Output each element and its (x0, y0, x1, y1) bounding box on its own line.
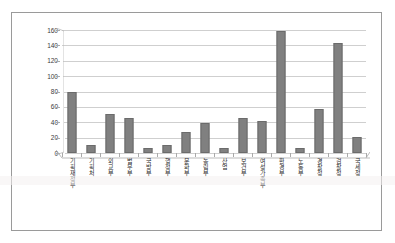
bar (314, 109, 323, 153)
y-axis-tick-label: 140 (10, 42, 58, 49)
x-axis-tick-mark (100, 153, 101, 157)
y-axis-tick-label: 20 (10, 134, 58, 141)
x-axis-tick-label: 여성가족부 (258, 158, 265, 188)
y-axis-tick-label: 100 (10, 73, 58, 80)
bar (352, 137, 361, 153)
bar (238, 118, 247, 153)
x-axis-tick-label: 법무부 (125, 158, 132, 176)
x-axis-tick-mark (366, 153, 367, 157)
bar (162, 145, 171, 153)
x-axis-tick-mark (347, 153, 348, 157)
bar-slot (347, 30, 366, 153)
x-axis-tick-label: 경찰청 (315, 158, 322, 176)
x-axis-tick-label: 기획처 (87, 158, 94, 176)
bar (257, 121, 266, 153)
x-axis-tick-mark (119, 153, 120, 157)
x-axis-tick-mark (309, 153, 310, 157)
x-axis-tick-mark (252, 153, 253, 157)
x-axis-tick-mark (138, 153, 139, 157)
x-axis-tick-label: 국세청 (353, 158, 360, 176)
bar-slot (233, 30, 252, 153)
x-axis-tick-mark (233, 153, 234, 157)
x-axis-tick-label: 환경부 (277, 158, 284, 176)
x-axis-tick-mark (81, 153, 82, 157)
x-axis-tick-mark (328, 153, 329, 157)
bar-slot (81, 30, 100, 153)
x-axis-tick-label: 농림부 (201, 158, 208, 176)
bar-slot (252, 30, 271, 153)
bar (200, 123, 209, 153)
bar (276, 31, 285, 153)
bar (181, 132, 190, 153)
x-axis-tick-mark (157, 153, 158, 157)
x-axis-tick-mark (214, 153, 215, 157)
x-axis-tick-mark (271, 153, 272, 157)
bar (333, 43, 342, 153)
bar-slot (138, 30, 157, 153)
bar-slot (309, 30, 328, 153)
x-axis-tick-label: 문화부 (182, 158, 189, 176)
x-axis-tick-label: 국방부 (144, 158, 151, 176)
bar-slot (157, 30, 176, 153)
x-axis-tick-label: 보건부 (239, 158, 246, 176)
bar-slot (290, 30, 309, 153)
x-axis-tick-mark (290, 153, 291, 157)
bar (105, 114, 114, 153)
x-axis-tick-mark (62, 153, 63, 157)
x-axis-tick-label: 검찰청 (334, 158, 341, 176)
x-axis-ticks (62, 153, 366, 157)
y-axis-tick-label: 80 (10, 88, 58, 95)
y-axis-tick-label: 120 (10, 57, 58, 64)
x-axis-labels: 기획재정부기획처외교부법무부국방부행정부문화부농림부산업보건부여성가족부환경부노… (62, 158, 366, 230)
x-axis-tick-mark (195, 153, 196, 157)
x-axis-tick-label: 산업 (220, 158, 227, 170)
bar (86, 145, 95, 153)
bar-slot (214, 30, 233, 153)
y-axis-tick-label: 60 (10, 103, 58, 110)
x-axis-tick-label: 기획재정부 (68, 158, 75, 188)
y-axis: 020406080100120140160 (0, 24, 58, 160)
chart-figure: 020406080100120140160 기획재정부기획처외교부법무부국방부행… (0, 0, 395, 243)
bar-slot (100, 30, 119, 153)
bar-series (62, 30, 366, 153)
bar-slot (62, 30, 81, 153)
bar-slot (195, 30, 214, 153)
x-axis-tick-label: 행정부 (163, 158, 170, 176)
x-axis-tick-label: 외교부 (106, 158, 113, 176)
x-axis-tick-label: 노동부 (296, 158, 303, 176)
bar (67, 92, 76, 154)
x-axis-tick-mark (176, 153, 177, 157)
bar-slot (176, 30, 195, 153)
bar-slot (271, 30, 290, 153)
bar-slot (328, 30, 347, 153)
y-axis-tick-label: 160 (10, 27, 58, 34)
bar (124, 118, 133, 153)
y-axis-tick-label: 0 (10, 150, 58, 157)
y-axis-tick-label: 40 (10, 119, 58, 126)
bar-slot (119, 30, 138, 153)
